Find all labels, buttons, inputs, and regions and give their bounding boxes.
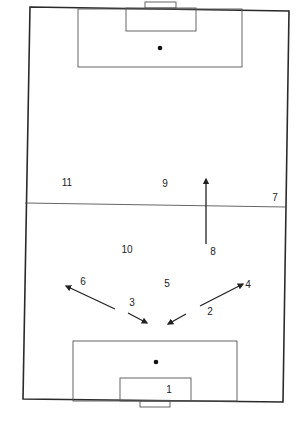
player-number-2: 2 [207, 306, 213, 317]
player-number-1: 1 [166, 384, 172, 395]
arrow-player-3 [128, 313, 147, 323]
bottom-penalty-spot [154, 360, 159, 365]
movement-arrows [66, 179, 243, 324]
bottom-goal [140, 401, 170, 407]
bottom-penalty-area [73, 341, 237, 401]
player-number-5: 5 [164, 278, 170, 289]
top-goal-area [126, 8, 196, 31]
arrow-player-6 [66, 286, 115, 309]
pitch-boundary [23, 7, 289, 402]
player-number-4: 4 [245, 279, 251, 290]
player-number-9: 9 [162, 178, 168, 189]
bottom-goal-area [120, 378, 191, 401]
top-goal [145, 2, 176, 8]
player-number-11: 11 [62, 177, 73, 188]
football-pitch-diagram: 1234567891011 [0, 0, 298, 443]
player-number-8: 8 [210, 246, 216, 257]
player-number-7: 7 [272, 192, 278, 203]
player-number-3: 3 [129, 297, 135, 308]
halfway-line [25, 203, 286, 207]
arrow-player-4 [200, 284, 243, 306]
arrow-player-2 [168, 314, 186, 324]
player-positions: 1234567891011 [62, 177, 278, 395]
player-number-6: 6 [80, 276, 86, 287]
player-number-10: 10 [121, 244, 133, 255]
top-penalty-area [78, 9, 242, 67]
top-penalty-spot [158, 46, 163, 51]
